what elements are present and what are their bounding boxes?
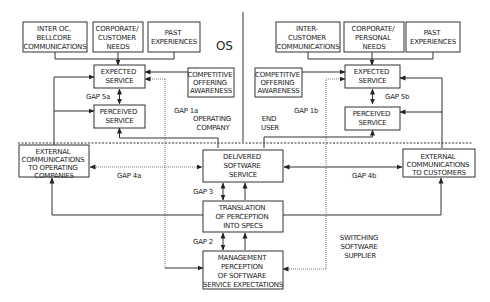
perceived-service-label: PERCEIVED SERVICE [100,108,139,125]
gap-2-label: GAP 2 [193,238,213,246]
end-user-region: INTER- CUSTOMER COMMUNICATIONS CORPORATE… [255,22,460,269]
gap-5b-label: GAP 5b [385,93,410,101]
end-user-label: END USER [261,115,279,132]
source-box-past-experiences [148,22,200,52]
gap-5a-label: GAP 5a [86,93,110,101]
supplier-region: EXTERNAL COMMUNICATIONS TO OPERATING COM… [19,145,475,289]
expected-service-label: EXPECTED SERVICE [101,68,138,85]
source-box-past-experiences-b [406,22,460,52]
gap-3-label: GAP 3 [193,188,213,196]
competitive-awareness-label: COMPETITIVE OFFERING AWARENESS [255,71,302,95]
delivered-software-service-label: DELIVERED SOFTWARE SERVICE [223,153,263,179]
expected-service-label: EXPECTED SERVICE [354,68,391,85]
gap-4b-label: GAP 4b [352,172,377,180]
operating-company-label: OPERATING COMPANY [193,115,233,132]
translation-label: TRANSLATION OF PERCEPTION INTO SPECS [216,204,271,230]
service-gap-model-diagram: INTER OC, BELLCORE COMMUNICATIONS CORPOR… [0,0,490,302]
os-label: OS [216,39,233,53]
gap-1b-label: GAP 1b [294,107,319,115]
perceived-service-label: PERCEIVED SERVICE [353,110,392,127]
gap-4a-label: GAP 4a [117,172,141,180]
competitive-awareness-label: COMPETITIVE OFFERING AWARENESS [188,71,235,95]
gap-1a-label: GAP 1a [174,107,198,115]
switching-software-supplier-label: SWITCHING SOFTWARE SUPPLIER [340,234,380,260]
